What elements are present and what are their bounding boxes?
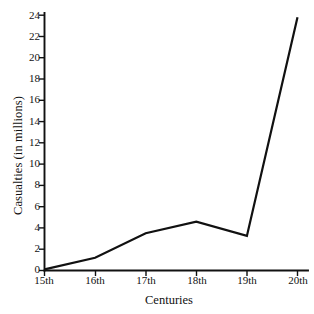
x-tick-label: 15th bbox=[20, 274, 68, 286]
x-tick-label: 17th bbox=[122, 274, 170, 286]
x-tick-label: 19th bbox=[223, 274, 271, 286]
data-series-line bbox=[45, 17, 298, 269]
x-tick-label: 20th bbox=[274, 274, 314, 286]
x-axis-label: Centuries bbox=[145, 293, 193, 308]
plot-area bbox=[0, 0, 314, 314]
x-axis-label-wrap: Centuries bbox=[0, 293, 314, 308]
line-chart: Casualties (in millions) 24 22 20 18 16 … bbox=[0, 0, 314, 314]
x-tick-label: 16th bbox=[71, 274, 119, 286]
x-tick-label: 18th bbox=[173, 274, 221, 286]
